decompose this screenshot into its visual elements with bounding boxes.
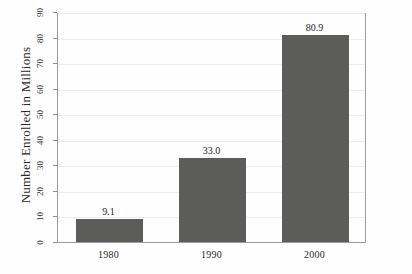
y-tick-label: 30: [35, 155, 46, 177]
y-tick-label: 90: [35, 2, 46, 24]
y-tick-label: 0: [35, 232, 46, 254]
bar: [179, 158, 246, 242]
y-tick-label: 70: [35, 53, 46, 75]
y-tick-label: 50: [35, 104, 46, 126]
y-tick-label: 10: [35, 206, 46, 228]
bar: [76, 219, 143, 242]
bar-value-label: 80.9: [285, 22, 345, 33]
bar: [282, 35, 349, 242]
bar-value-label: 9.1: [79, 206, 139, 217]
y-tick-label: 60: [35, 78, 46, 100]
bar-chart-figure: Number Enrolled in Millions 010203040506…: [0, 0, 412, 274]
x-tick-label: 1990: [182, 249, 242, 260]
y-tick-label: 20: [35, 180, 46, 202]
gridline: [58, 13, 365, 14]
y-tick-label: 80: [35, 27, 46, 49]
y-tick-label: 40: [35, 129, 46, 151]
x-tick-label: 1980: [79, 249, 139, 260]
x-tick-label: 2000: [285, 249, 345, 260]
bar-value-label: 33.0: [182, 145, 242, 156]
y-axis-title: Number Enrolled in Millions: [18, 10, 34, 240]
